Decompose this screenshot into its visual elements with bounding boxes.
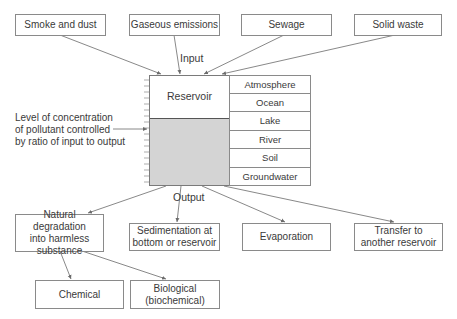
output-line: Sedimentation at	[137, 225, 212, 237]
pollutant-level-fill	[150, 118, 229, 185]
reservoir: Reservoir	[149, 75, 230, 186]
reservoir-type-lake: Lake	[229, 112, 311, 131]
input-label-text: Input	[180, 52, 203, 64]
output-line: another reservoir	[361, 237, 437, 249]
input-label: Smoke and dust	[24, 19, 96, 31]
reservoir-type-river: River	[229, 131, 311, 150]
output-line: Transfer to	[375, 225, 423, 237]
reservoir-label: Reservoir	[150, 90, 229, 102]
output-line: into harmless	[30, 233, 89, 245]
input-label: Gaseous emissions	[131, 19, 218, 31]
degradation-biological: Biological (biochemical)	[130, 280, 220, 309]
output-label-text: Output	[173, 191, 205, 203]
reservoir-types-table: Atmosphere Ocean Lake River Soil Groundw…	[229, 75, 311, 186]
output-line: substance	[37, 245, 83, 257]
reservoir-type-groundwater: Groundwater	[229, 168, 311, 187]
level-note-line: of pollutant controlled	[15, 124, 125, 136]
output-natural-degradation: Natural degradation into harmless substa…	[15, 214, 104, 252]
output-evaporation: Evaporation	[242, 223, 331, 251]
input-solid-waste: Solid waste	[354, 14, 442, 36]
input-gaseous-emissions: Gaseous emissions	[129, 14, 220, 36]
output-line: bottom or reservoir	[133, 237, 217, 249]
reservoir-type-ocean: Ocean	[229, 94, 311, 113]
degradation-line: Biological	[154, 283, 197, 295]
input-sewage: Sewage	[241, 14, 332, 36]
degradation-line: Chemical	[59, 289, 101, 301]
output-sedimentation: Sedimentation at bottom or reservoir	[129, 223, 220, 251]
level-note: Level of concentration of pollutant cont…	[15, 112, 125, 148]
level-note-line: Level of concentration	[15, 112, 125, 124]
input-label: Sewage	[268, 19, 304, 31]
output-transfer: Transfer to another reservoir	[354, 223, 443, 251]
level-note-line: by ratio of input to output	[15, 136, 125, 148]
degradation-chemical: Chemical	[35, 280, 124, 309]
output-line: Natural degradation	[16, 209, 103, 233]
reservoir-type-soil: Soil	[229, 149, 311, 168]
degradation-line: (biochemical)	[145, 295, 204, 307]
input-smoke-and-dust: Smoke and dust	[15, 14, 106, 36]
input-label: Solid waste	[372, 19, 423, 31]
reservoir-type-atmosphere: Atmosphere	[229, 75, 311, 94]
output-line: Evaporation	[260, 231, 313, 243]
